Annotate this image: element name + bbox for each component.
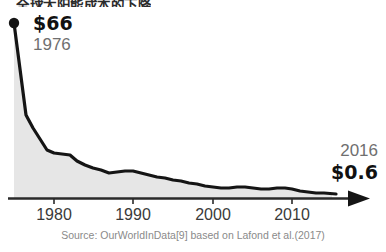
x-tick-label-1990: 1990 (115, 206, 151, 224)
x-tick-label-2010: 2010 (274, 206, 310, 224)
x-tick-label-1980: 1980 (36, 206, 72, 224)
end-year-label: 2016 (340, 142, 378, 159)
x-axis-arrowhead (348, 191, 370, 207)
end-value-label: $0.6 (331, 163, 378, 182)
x-tick-label-2000: 2000 (195, 206, 231, 224)
start-point-marker (9, 18, 19, 28)
source-caption: Source: OurWorldInData[9] based on Lafon… (0, 229, 386, 241)
start-year-label: 1976 (33, 36, 71, 53)
start-value-label: $66 (33, 14, 73, 33)
